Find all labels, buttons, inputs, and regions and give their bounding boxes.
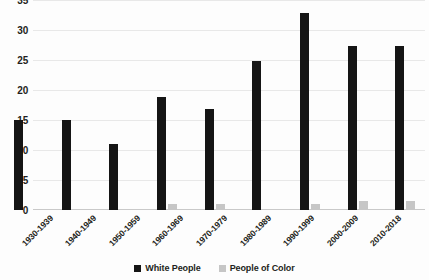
chart-legend: White PeoplePeople of Color xyxy=(0,259,429,277)
bar-people-of-color[interactable] xyxy=(168,204,177,210)
bar-white-people[interactable] xyxy=(395,46,404,210)
bar-people-of-color[interactable] xyxy=(311,204,320,210)
bar-white-people[interactable] xyxy=(109,144,118,210)
bar-white-people[interactable] xyxy=(252,61,261,210)
bar-white-people[interactable] xyxy=(300,13,309,210)
bar-group xyxy=(191,0,239,210)
x-axis-tick: 2010-2018 xyxy=(382,211,426,259)
bar-group xyxy=(95,0,143,210)
legend-swatch-icon xyxy=(219,265,226,272)
bar-white-people[interactable] xyxy=(62,120,71,210)
bar-people-of-color[interactable] xyxy=(359,201,368,210)
bar-group xyxy=(238,0,286,210)
legend-swatch-icon xyxy=(134,265,141,272)
x-axis-tick-label: 1930-1939 xyxy=(20,213,55,248)
plot-area: 05101520253035 xyxy=(0,0,429,210)
bar-chart: 05101520253035 1930-19391940-19491950-19… xyxy=(0,0,429,280)
x-axis: 1930-19391940-19491950-19591960-19691970… xyxy=(33,211,425,259)
legend-item[interactable]: People of Color xyxy=(219,263,295,273)
bar-group xyxy=(143,0,191,210)
bar-group xyxy=(48,0,96,210)
bar-white-people[interactable] xyxy=(157,97,166,210)
bar-people-of-color[interactable] xyxy=(216,204,225,210)
bar-white-people[interactable] xyxy=(205,109,214,211)
bar-group xyxy=(381,0,429,210)
bar-people-of-color[interactable] xyxy=(406,201,415,210)
legend-label: People of Color xyxy=(230,263,295,273)
legend-label: White People xyxy=(145,263,200,273)
bar-group xyxy=(334,0,382,210)
bar-white-people[interactable] xyxy=(14,120,23,210)
bar-groups xyxy=(0,0,429,210)
bar-group xyxy=(286,0,334,210)
bar-white-people[interactable] xyxy=(348,46,357,210)
legend-item[interactable]: White People xyxy=(134,263,200,273)
bar-group xyxy=(0,0,48,210)
